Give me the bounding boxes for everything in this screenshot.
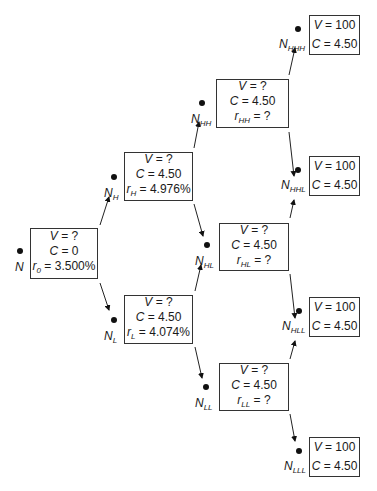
node-box-NHHH: V = 100 C = 4.50 xyxy=(309,15,360,55)
node-dot-NH xyxy=(111,174,117,180)
node-dot-NHH xyxy=(199,100,205,106)
edge-NHL-NHLL xyxy=(290,274,295,318)
node-label-NLL: NLL xyxy=(195,396,213,415)
node-label-NHL: NHL xyxy=(195,254,214,273)
node-box-NHHL: V = 100 C = 4.50 xyxy=(309,156,360,196)
node-box-NHL: V = ? C = 4.50 rHL = ? xyxy=(219,223,289,271)
node-box-NH: V = ? C = 4.50 rH = 4.976% xyxy=(124,152,193,201)
node-dot-NHHH xyxy=(295,26,301,32)
edge-NL-NLL xyxy=(195,347,202,378)
node-dot-NL xyxy=(111,317,117,323)
node-label-N: N xyxy=(15,260,24,274)
node-box-NLL: V = ? C = 4.50 rLL = ? xyxy=(219,363,289,411)
edge-NHL-NHHL xyxy=(290,200,294,218)
node-dot-NHHL xyxy=(295,167,301,173)
node-label-NLLL: NLLL xyxy=(284,459,306,478)
edge-N-NL xyxy=(100,283,109,310)
edge-NH-NHL xyxy=(194,204,203,236)
node-box-NLLL: V = 100 C = 4.50 xyxy=(309,437,360,477)
node-dot-NHL xyxy=(204,242,210,248)
node-label-NHH: NHH xyxy=(191,112,211,131)
node-box-NHLL: V = 100 C = 4.50 xyxy=(309,297,360,337)
edge-NLL-NLLL xyxy=(290,414,295,441)
node-dot-NLLL xyxy=(296,448,302,454)
node-label-NHHH: NHHH xyxy=(279,37,305,56)
node-dot-N xyxy=(17,248,23,254)
node-dot-NLL xyxy=(203,384,209,390)
node-label-NHLL: NHLL xyxy=(282,319,305,338)
node-label-NL: NL xyxy=(104,329,117,348)
node-box-NL: V = ? C = 4.50 rL = 4.074% xyxy=(124,295,193,344)
node-label-NHHL: NHHL xyxy=(281,178,306,197)
binomial-tree-diagram: N V = ? C = 0 r0 = 3.500% NH V = ? C = 4… xyxy=(0,0,377,491)
node-box-NHH: V = ? C = 4.50 rHH = ? xyxy=(216,79,289,128)
node-label-NH: NH xyxy=(104,186,118,205)
node-dot-NHLL xyxy=(296,308,302,314)
edge-NLL-NHLL xyxy=(290,341,295,359)
node-box-N: V = ? C = 0 r0 = 3.500% xyxy=(30,228,98,279)
edge-NHH-NHHL xyxy=(289,132,294,176)
